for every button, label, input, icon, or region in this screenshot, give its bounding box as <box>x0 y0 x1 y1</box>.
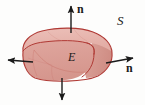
divergence-theorem-figure: n n S E <box>0 0 145 105</box>
surface-label: S <box>117 14 124 27</box>
normal-right-label: n <box>126 62 133 74</box>
normal-top-label: n <box>77 3 84 15</box>
region-label: E <box>68 51 75 63</box>
